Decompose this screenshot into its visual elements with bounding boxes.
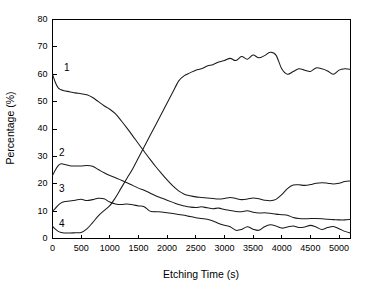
line-chart-canvas: 01020304050607080 0500100015002000250030… <box>0 0 367 288</box>
y-tick-labels: 01020304050607080 <box>37 14 47 243</box>
x-tick-label: 4000 <box>272 243 292 253</box>
x-tick-label: 1000 <box>100 243 120 253</box>
chart-figure: 01020304050607080 0500100015002000250030… <box>0 0 367 288</box>
x-tick-label: 1500 <box>128 243 148 253</box>
y-tick-label: 30 <box>37 151 47 161</box>
y-tick-label: 10 <box>37 206 47 216</box>
y-tick-label: 70 <box>37 41 47 51</box>
x-tick-label: 3500 <box>243 243 263 253</box>
x-axis-title: Etching Time (s) <box>163 268 239 280</box>
x-tick-label: 500 <box>74 243 89 253</box>
x-tick-labels: 0500100015002000250030003500400045005000 <box>50 243 349 253</box>
y-tick-label: 80 <box>37 14 47 24</box>
y-tick-label: 40 <box>37 123 47 133</box>
x-tick-label: 2000 <box>157 243 177 253</box>
series-label-4: 4 <box>59 218 65 229</box>
x-tick-marks <box>53 235 340 239</box>
series-label-1: 1 <box>64 62 70 73</box>
y-axis-title: Percentage (%) <box>4 92 16 165</box>
series-line-1 <box>53 74 351 201</box>
x-tick-label: 3000 <box>214 243 234 253</box>
series-label-2: 2 <box>59 147 65 158</box>
plot-axis-frame <box>53 20 351 239</box>
y-tick-label: 50 <box>37 96 47 106</box>
series-paths <box>53 52 351 233</box>
series-line-2 <box>53 164 351 220</box>
x-tick-label: 4500 <box>300 243 320 253</box>
series-line-4 <box>53 52 351 233</box>
y-tick-label: 0 <box>42 233 47 243</box>
series-inline-labels: 1234 <box>59 62 70 229</box>
x-tick-label: 0 <box>50 243 55 253</box>
y-tick-label: 60 <box>37 69 47 79</box>
series-line-3 <box>53 198 351 233</box>
x-tick-label: 2500 <box>186 243 206 253</box>
series-label-3: 3 <box>59 183 65 194</box>
x-tick-label: 5000 <box>329 243 349 253</box>
y-tick-label: 20 <box>37 178 47 188</box>
y-tick-marks <box>53 20 57 239</box>
